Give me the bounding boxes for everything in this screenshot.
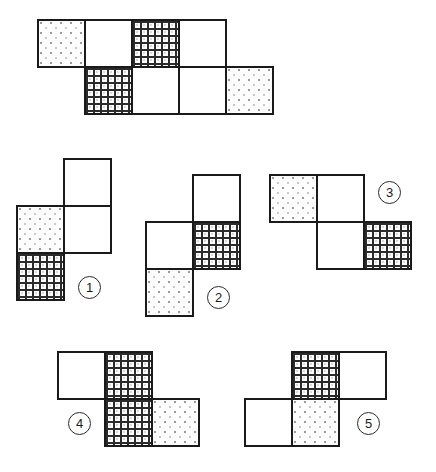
option-2-face-dotted-r2c0 <box>145 268 194 317</box>
prompt-net-face-blank-r0c1 <box>84 19 133 68</box>
option-5-face-blank-r0c2 <box>338 351 387 400</box>
option-4-face-grid-r0c1 <box>104 351 153 400</box>
option-badge-5[interactable]: 5 <box>357 412 380 435</box>
option-3-face-blank-r0c1 <box>316 174 365 223</box>
option-2-face-grid-r1c1 <box>192 221 241 270</box>
option-badge-2[interactable]: 2 <box>207 286 230 309</box>
option-1-face-grid-r2c0 <box>16 252 65 301</box>
option-4-face-blank-r0c0 <box>57 351 106 400</box>
prompt-net-face-grid-r0c2 <box>131 19 180 68</box>
prompt-net-face-grid-r1c1 <box>84 66 133 115</box>
option-1-face-blank-r1c1 <box>63 205 112 254</box>
option-5-face-blank-r1c0 <box>244 398 293 447</box>
option-badge-4[interactable]: 4 <box>68 412 91 435</box>
option-badge-3[interactable]: 3 <box>378 181 401 204</box>
option-3-face-grid-r1c2 <box>363 221 412 270</box>
prompt-net-face-blank-r1c3 <box>178 66 227 115</box>
option-badge-1[interactable]: 1 <box>78 276 101 299</box>
option-1-face-blank-r0c1 <box>63 158 112 207</box>
puzzle-canvas: 1 2 3 4 5 <box>0 0 436 472</box>
prompt-net-face-dotted-r1c4 <box>225 66 274 115</box>
option-2-face-blank-r1c0 <box>145 221 194 270</box>
option-1-face-dotted-r1c0 <box>16 205 65 254</box>
option-5-face-dotted-r1c1 <box>291 398 340 447</box>
prompt-net-face-blank-r0c3 <box>178 19 227 68</box>
option-2-face-blank-r0c1 <box>192 174 241 223</box>
option-4-face-dotted-r1c2 <box>151 398 200 447</box>
option-3-face-dotted-r0c0 <box>269 174 318 223</box>
prompt-net-face-dotted-r0c0 <box>37 19 86 68</box>
option-4-face-grid-r1c1 <box>104 398 153 447</box>
option-5-face-grid-r0c1 <box>291 351 340 400</box>
prompt-net-face-blank-r1c2 <box>131 66 180 115</box>
option-3-face-blank-r1c1 <box>316 221 365 270</box>
